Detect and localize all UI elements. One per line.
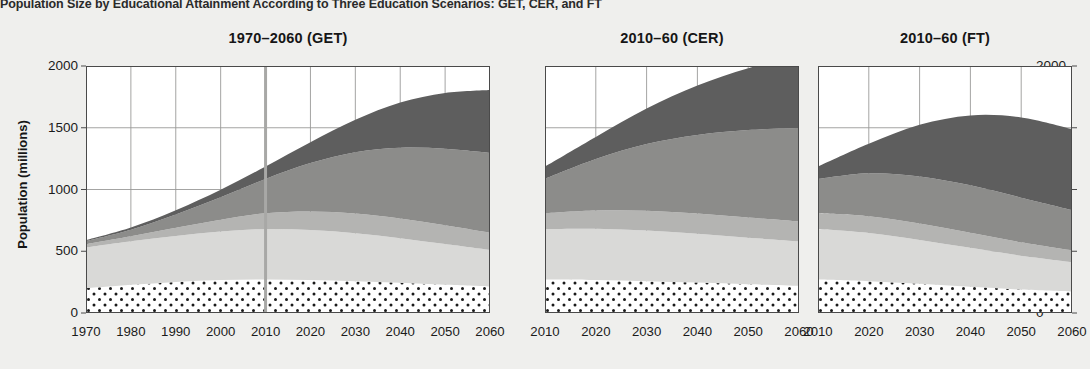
x-axis-tick: 2010 <box>521 325 569 338</box>
x-axis-tick: 2050 <box>421 325 469 338</box>
x-axis-tick: 2020 <box>286 325 334 338</box>
area-layer <box>86 279 490 313</box>
x-axis-tick: 2030 <box>896 325 944 338</box>
x-axis-tick: 1970 <box>62 325 110 338</box>
x-axis-tick: 2020 <box>845 325 893 338</box>
plot-area-ft <box>818 66 1072 313</box>
x-axis-tick: 2050 <box>997 325 1045 338</box>
figure-container: Population Size by Educational Attainmen… <box>0 0 1090 369</box>
x-axis-tick: 1990 <box>152 325 200 338</box>
x-axis-tick: 2060 <box>1048 325 1090 338</box>
y-axis-tick-left: 1500 <box>26 121 78 135</box>
x-axis-tick: 2030 <box>331 325 379 338</box>
y-axis-tick-left: 500 <box>26 244 78 258</box>
x-axis-tick: 1980 <box>107 325 155 338</box>
x-axis-tick: 2000 <box>197 325 245 338</box>
x-axis-tick: 2040 <box>946 325 994 338</box>
plot-area-get <box>86 66 490 313</box>
x-axis-tick: 2020 <box>572 325 620 338</box>
x-axis-tick: 2040 <box>673 325 721 338</box>
y-axis-tick-left: 1000 <box>26 183 78 197</box>
panel-title-ft: 2010–60 (FT) <box>818 30 1072 46</box>
y-axis-tick-left: 0 <box>26 306 78 320</box>
x-axis-tick: 2010 <box>242 325 290 338</box>
panel-title-cer: 2010–60 (CER) <box>545 30 799 46</box>
x-axis-tick: 2060 <box>466 325 514 338</box>
plot-area-cer <box>545 66 799 313</box>
panel-title-get: 1970–2060 (GET) <box>86 30 490 46</box>
x-axis-tick: 2050 <box>724 325 772 338</box>
x-axis-tick: 2040 <box>376 325 424 338</box>
x-axis-tick: 2030 <box>623 325 671 338</box>
y-axis-tick-left: 2000 <box>26 59 78 73</box>
figure-title: Population Size by Educational Attainmen… <box>0 0 1090 11</box>
x-axis-tick: 2010 <box>794 325 842 338</box>
